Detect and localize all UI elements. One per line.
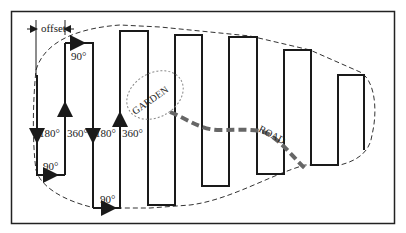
- turn-90-bottom-a-label: 90°: [43, 160, 58, 172]
- coverage-diagram: offset 90° 180° 360° 90° 180° 360° 90° G…: [0, 0, 406, 233]
- turn-90-top-label: 90°: [71, 50, 86, 62]
- road-label: ROAD: [257, 123, 287, 146]
- road: [170, 112, 307, 170]
- turn-360-b-label: 360°: [122, 127, 143, 139]
- turn-180-b-label: 180°: [95, 127, 116, 139]
- turn-360-a-label: 360°: [67, 127, 88, 139]
- offset-label: offset: [41, 22, 66, 34]
- turn-90-bottom-b-label: 90°: [100, 193, 115, 205]
- garden-label: GARDEN: [130, 84, 170, 117]
- turn-180-a-label: 180°: [39, 127, 60, 139]
